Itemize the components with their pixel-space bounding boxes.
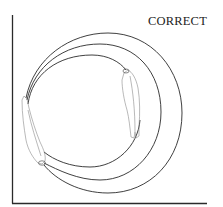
diagram-canvas: [0, 0, 223, 207]
arm-end-sketch: [122, 70, 140, 138]
middle-swing-path: [27, 44, 161, 180]
figure-label: CORRECT: [148, 14, 207, 29]
diagram-figure: CORRECT: [0, 0, 223, 207]
arm-start-sketch: [22, 96, 45, 164]
outer-swing-path: [26, 33, 182, 193]
